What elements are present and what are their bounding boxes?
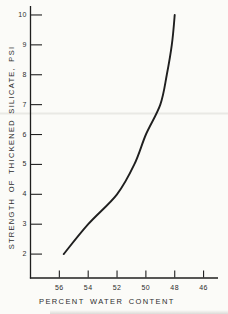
scan-smudge: [50, 310, 228, 314]
y-tick-label: 2: [11, 250, 27, 258]
y-tick-label: 4: [11, 190, 27, 198]
x-tick-label: 52: [107, 284, 127, 292]
data-curve: [64, 15, 175, 254]
line-chart-canvas: [0, 0, 228, 314]
y-tick-label: 9: [11, 41, 27, 49]
y-tick-label: 6: [11, 131, 27, 139]
y-tick-label: 8: [11, 71, 27, 79]
x-tick-label: 54: [78, 284, 98, 292]
y-tick-label: 10: [11, 11, 27, 19]
y-tick-label: 7: [11, 101, 27, 109]
x-axis-title: PERCENT WATER CONTENT: [39, 297, 175, 306]
x-tick-label: 46: [194, 284, 214, 292]
chart-figure: STRENGTH OF THICKENED SILICATE, PSI PERC…: [0, 0, 228, 314]
y-tick-label: 3: [11, 220, 27, 228]
x-tick-label: 48: [165, 284, 185, 292]
y-axis-title: STRENGTH OF THICKENED SILICATE, PSI: [6, 28, 17, 268]
x-tick-label: 56: [49, 284, 69, 292]
x-tick-label: 50: [136, 284, 156, 292]
y-tick-label: 5: [11, 160, 27, 168]
